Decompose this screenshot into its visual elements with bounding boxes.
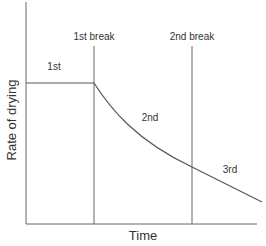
y-axis-label: Rate of drying	[4, 80, 19, 161]
drying-rate-diagram: 1st break 2nd break 1st 2nd 3rd Time Rat…	[0, 0, 266, 246]
x-axis-label: Time	[129, 228, 157, 243]
stage-1-label: 1st	[47, 61, 61, 72]
second-break-label: 2nd break	[170, 31, 215, 42]
stage-2-label: 2nd	[142, 112, 159, 123]
stage-3-label: 3rd	[223, 164, 237, 175]
stage-2-falling-rate-curve	[94, 83, 192, 167]
first-break-label: 1st break	[73, 31, 115, 42]
